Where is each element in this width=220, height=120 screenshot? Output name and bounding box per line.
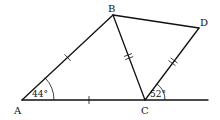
point-label-a: A <box>13 105 22 116</box>
point-label-b: B <box>108 3 115 14</box>
segment-bc <box>113 15 145 100</box>
diagram-svg: A B C D 44° 52° <box>0 0 220 120</box>
geometry-diagram: A B C D 44° 52° <box>0 0 220 120</box>
angle-label-a: 44° <box>32 89 48 99</box>
point-label-d: D <box>200 17 208 28</box>
point-label-c: C <box>141 105 149 116</box>
segment-bd <box>113 15 199 28</box>
angle-label-c: 52° <box>150 89 166 99</box>
